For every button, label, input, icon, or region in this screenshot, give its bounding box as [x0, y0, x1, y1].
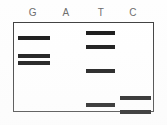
gel-band-t-1 — [86, 31, 115, 35]
gel-band-g-1 — [18, 36, 50, 40]
gel-band-g-2 — [18, 54, 50, 58]
lane-label-t: T — [94, 7, 108, 19]
gel-band-c-2 — [120, 110, 151, 114]
gel-band-t-3 — [86, 69, 115, 73]
gel-band-t-2 — [86, 45, 115, 49]
gel-band-t-4 — [86, 103, 115, 107]
lane-label-a: A — [59, 7, 73, 19]
gel-box — [13, 22, 154, 112]
gel-band-c-1 — [120, 96, 151, 100]
lane-label-g: G — [26, 7, 40, 19]
lane-label-c: C — [126, 7, 140, 19]
sequencing-gel-figure: G A T C — [0, 0, 167, 125]
gel-band-g-3 — [18, 61, 50, 65]
